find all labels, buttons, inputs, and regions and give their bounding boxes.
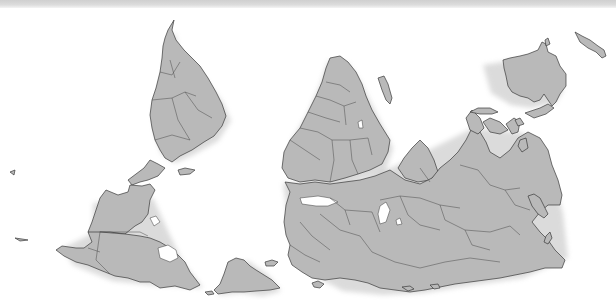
madagascar[interactable] [378,76,392,104]
africa[interactable] [282,56,390,182]
north-america[interactable] [10,170,200,290]
new-zealand[interactable] [575,32,606,58]
arabian-peninsula[interactable] [398,140,438,182]
central-america[interactable] [128,160,195,185]
world-map[interactable] [0,0,616,301]
greenland[interactable] [214,258,280,294]
